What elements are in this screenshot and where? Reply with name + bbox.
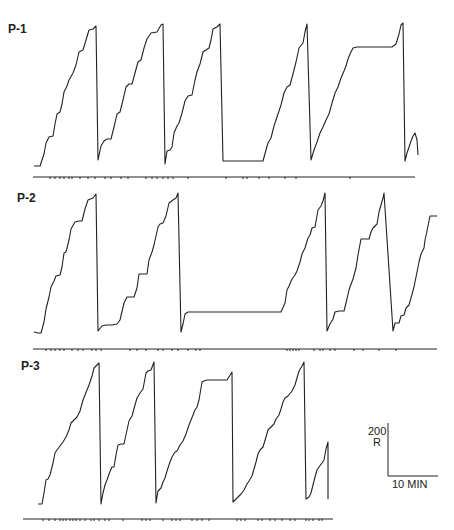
scale-time: 10 MIN bbox=[392, 478, 428, 490]
scale-unit: R bbox=[373, 436, 381, 448]
trace-p1 bbox=[34, 23, 418, 166]
panel-label-p2: P-2 bbox=[17, 191, 36, 205]
trace-p2 bbox=[34, 193, 437, 333]
trace-p3 bbox=[38, 362, 328, 504]
cumulative-record-figure: P-1 P-2 P-3 200 R 10 MIN bbox=[0, 0, 454, 530]
panel-label-p3: P-3 bbox=[21, 359, 40, 373]
scale-bar: 200 R 10 MIN bbox=[368, 423, 438, 490]
panel-label-p1: P-1 bbox=[8, 22, 27, 36]
